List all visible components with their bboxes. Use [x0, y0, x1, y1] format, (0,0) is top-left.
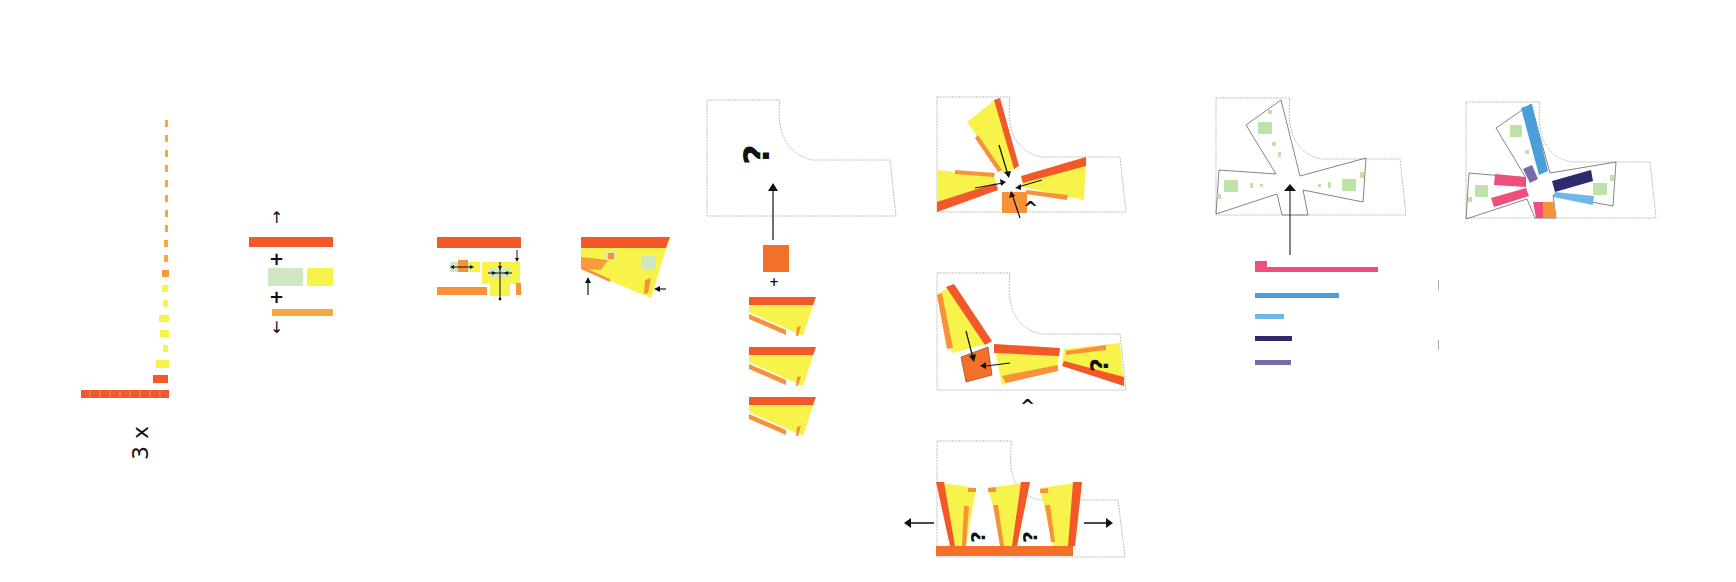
- multiplier-label: 3 x: [128, 426, 153, 460]
- question-mark: ?: [736, 144, 777, 165]
- step2-program-stack: ↑ + + ↓: [230, 200, 350, 340]
- wedge-graphic: [570, 220, 680, 310]
- tick-mark: [1438, 280, 1439, 290]
- final-plan-graphic: [1460, 95, 1670, 230]
- option-linear: ? ^: [930, 265, 1140, 425]
- plus-sign: +: [769, 275, 779, 289]
- legend-bar-pink: [1255, 267, 1378, 272]
- tick-mark: [1438, 340, 1439, 350]
- legend-bar-purple: [1255, 360, 1291, 365]
- step7-landscape-outline: [1210, 90, 1430, 380]
- site-outline-graphic: [700, 90, 920, 450]
- legend-bar-blue: [1255, 293, 1339, 298]
- option-marker: ^: [1023, 197, 1038, 218]
- wing-stack: [749, 297, 816, 436]
- red-bar: [249, 237, 333, 247]
- option-parallel: ? ?: [900, 430, 1140, 570]
- arrow-down-icon: ↓: [270, 318, 283, 337]
- question-mark: ?: [1086, 358, 1114, 372]
- plus-sign: +: [269, 248, 284, 269]
- green-block: [268, 268, 303, 286]
- legend-bar-light-blue: [1255, 314, 1284, 319]
- step8-final-plan: [1460, 95, 1670, 230]
- step5-site-question: ? +: [700, 90, 920, 450]
- parallel-graphic: [900, 430, 1140, 570]
- orange-bar: [272, 309, 333, 316]
- plus-sign: +: [269, 286, 284, 307]
- option-radial: ^: [930, 90, 1140, 230]
- question-mark: ?: [966, 531, 990, 543]
- program-legend: [1255, 261, 1405, 371]
- step4-wedge: [570, 220, 680, 310]
- yellow-block: [307, 268, 333, 286]
- step3-arrangement: [420, 220, 540, 310]
- question-mark: ?: [1018, 531, 1042, 543]
- arrow-up-icon: ↑: [270, 208, 283, 227]
- option-marker: ^: [1020, 395, 1035, 416]
- arrangement-graphic: [420, 220, 540, 310]
- legend-bar-navy: [1255, 336, 1292, 341]
